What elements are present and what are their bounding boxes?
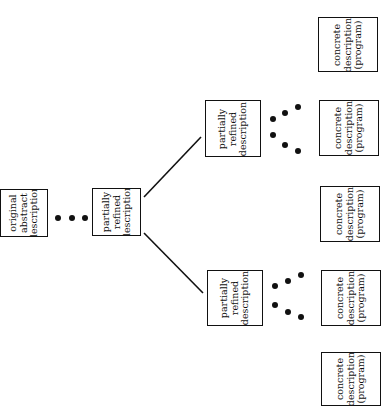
node-label: concretedescription(program) <box>332 17 364 71</box>
node-label-line: (program) <box>356 352 367 406</box>
ellipsis-dot <box>55 215 61 221</box>
node-label-line: description <box>122 188 133 236</box>
node-concrete-5: concretedescription(program) <box>321 352 381 406</box>
node-concrete-4: concretedescription(program) <box>321 270 381 326</box>
node-label: concretedescription(program) <box>333 101 365 155</box>
node-label-line: concrete <box>334 187 345 241</box>
node-label-line: concrete <box>335 271 346 325</box>
ellipsis-dot <box>298 314 304 320</box>
ellipsis-dot <box>270 132 276 138</box>
node-label-line: partially <box>217 101 228 155</box>
node-concrete-3: concretedescription(program) <box>320 186 380 242</box>
node-label-line: partially <box>219 271 230 325</box>
node-partial-center: partiallyrefineddescription <box>92 188 141 236</box>
node-label-line: partially <box>101 188 112 236</box>
node-label: concretedescription(program) <box>335 271 367 325</box>
node-partial-upper: partiallyrefineddescription <box>205 100 261 157</box>
node-label-line: (program) <box>353 17 364 71</box>
ellipsis-dot <box>295 148 301 154</box>
node-label-line: original <box>8 189 19 237</box>
ellipsis-dot <box>272 283 278 289</box>
node-label: partiallyrefineddescription <box>101 188 133 236</box>
ellipsis-dot <box>282 142 288 148</box>
node-label-line: concrete <box>332 17 343 71</box>
ellipsis-dot <box>82 215 88 221</box>
node-label-line: refined <box>111 188 122 236</box>
node-label: concretedescription(program) <box>335 352 367 406</box>
ellipsis-dot <box>298 272 304 278</box>
node-label-line: (program) <box>354 101 365 155</box>
node-label-line: concrete <box>333 101 344 155</box>
node-concrete-2: concretedescription(program) <box>319 100 379 156</box>
node-label-line: description <box>29 189 40 237</box>
node-original: originalabstractdescription <box>0 189 48 237</box>
ellipsis-dot <box>270 116 276 122</box>
node-label-line: (program) <box>356 271 367 325</box>
ellipsis-dot <box>295 104 301 110</box>
ellipsis-dot <box>285 278 291 284</box>
node-label: partiallyrefineddescription <box>219 271 251 325</box>
node-label: originalabstractdescription <box>8 189 40 237</box>
node-label-line: concrete <box>335 352 346 406</box>
node-label-line: description <box>240 271 251 325</box>
edge-partial-center-to-partial-lower <box>144 233 203 293</box>
ellipsis-dot <box>272 302 278 308</box>
ellipsis-dot <box>282 110 288 116</box>
node-label: concretedescription(program) <box>334 187 366 241</box>
node-label-line: (program) <box>355 187 366 241</box>
ellipsis-dot <box>69 215 75 221</box>
node-label-line: description <box>238 101 249 155</box>
ellipsis-dot <box>285 309 291 315</box>
edge-partial-center-to-partial-upper <box>144 137 201 197</box>
node-partial-lower: partiallyrefineddescription <box>207 270 263 326</box>
node-label: partiallyrefineddescription <box>217 101 249 155</box>
node-concrete-1: concretedescription(program) <box>318 17 378 72</box>
